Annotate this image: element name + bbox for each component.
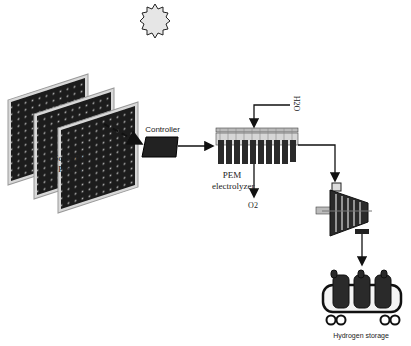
electrolyzer-to-compressor-arrow [298,145,335,180]
solar-pv-label-line2: Panels [40,164,100,175]
pem-electrolyzer-icon [216,128,298,164]
pem-electrolyzer-label: PEM electrolyzer [212,170,252,192]
compressor-icon [316,183,372,236]
hydrogen-storage-label: Hydrogen storage [318,332,404,339]
controller-label: Controller [140,125,185,134]
water-label: H2O [291,94,302,114]
solar-pv-label: Solar PV Panels [40,153,100,175]
water-inlet-arrow [254,105,290,126]
pem-label-line1: PEM [212,170,252,181]
sun-icon [140,4,170,38]
oxygen-label: O2 [240,200,266,211]
pem-label-line2: electrolyzer [212,181,252,192]
solar-pv-label-line1: Solar PV [40,153,100,164]
controller-icon [142,137,178,157]
hydrogen-storage-icon [323,270,401,325]
solar-pv-panels-icon [8,74,138,213]
